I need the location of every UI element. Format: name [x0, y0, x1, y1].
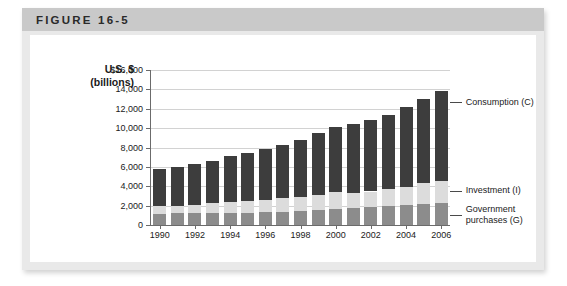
bar-column	[312, 70, 325, 225]
bar-segment	[435, 203, 448, 225]
bar-column	[171, 70, 184, 225]
bar-segment	[224, 213, 237, 225]
bar-segment	[188, 164, 201, 205]
bar-column	[153, 70, 166, 225]
bar-column	[417, 70, 430, 225]
bar-segment	[347, 193, 360, 209]
y-axis-tick	[146, 186, 150, 187]
bar-column	[329, 70, 342, 225]
bar-segment	[329, 192, 342, 209]
bar-segment	[294, 140, 307, 197]
bar-segment	[312, 133, 325, 195]
bar-segment	[171, 206, 184, 214]
y-axis-tick	[146, 128, 150, 129]
bar-segment	[382, 206, 395, 225]
x-axis-tick-label: 1992	[185, 230, 205, 240]
bar-column	[294, 70, 307, 225]
x-axis-tick	[160, 226, 161, 229]
bar-segment	[276, 145, 289, 199]
bar-segment	[188, 213, 201, 225]
bar-segment	[329, 209, 342, 225]
y-axis-tick	[146, 206, 150, 207]
bar-segment	[206, 213, 219, 225]
bar-segment	[400, 187, 413, 205]
x-axis-tick	[336, 226, 337, 229]
bar-segment	[364, 120, 377, 191]
bar-segment	[276, 212, 289, 225]
bar-column	[188, 70, 201, 225]
bar-segment	[312, 210, 325, 225]
legend-label-consumption: Consumption (C)	[466, 97, 534, 108]
x-axis-tick-label: 2000	[326, 230, 346, 240]
bar-segment	[417, 99, 430, 183]
bar-column	[241, 70, 254, 225]
figure-titlebar: FIGURE 16-5	[22, 8, 544, 31]
y-axis-tick-label: 2,000	[120, 201, 143, 211]
legend-label-investment: Investment (I)	[466, 185, 521, 196]
legend-label-line: Investment (I)	[466, 185, 521, 196]
x-axis-tick	[301, 226, 302, 229]
y-axis-tick	[146, 148, 150, 149]
bar-segment	[382, 115, 395, 190]
callout-leader-line	[450, 102, 462, 103]
bar-segment	[224, 202, 237, 213]
y-axis-tick	[146, 225, 150, 226]
callout-leader-line	[450, 191, 462, 192]
bar-column	[347, 70, 360, 225]
y-axis-tick-label: 4,000	[120, 181, 143, 191]
legend-label-line: Consumption (C)	[466, 97, 534, 108]
x-axis-tick	[406, 226, 407, 229]
legend-label-line: Government	[466, 204, 523, 215]
bar-segment	[153, 206, 166, 214]
x-axis-tick	[371, 226, 372, 229]
bar-column	[435, 70, 448, 225]
bar-segment	[188, 205, 201, 213]
bar-segment	[417, 183, 430, 203]
y-axis-tick-label: 12,000	[115, 104, 143, 114]
bar-segment	[364, 207, 377, 225]
bar-segment	[241, 213, 254, 225]
bar-segment	[417, 204, 430, 226]
bar-column	[276, 70, 289, 225]
bar-segment	[329, 127, 342, 192]
figure-card: FIGURE 16-5 U.S. $ (billions) $16,00014,…	[22, 8, 544, 270]
bar-segment	[400, 107, 413, 187]
y-axis-tick	[146, 70, 150, 71]
x-axis-tick	[195, 226, 196, 229]
y-axis-tick	[146, 167, 150, 168]
x-axis-tick-label: 1990	[150, 230, 170, 240]
y-axis-tick-label: 0	[138, 220, 143, 230]
x-axis-tick-label: 2004	[396, 230, 416, 240]
bar-segment	[259, 149, 272, 200]
bar-segment	[276, 198, 289, 211]
bar-series-layer	[151, 70, 450, 225]
y-axis-tick-label: 14,000	[115, 84, 143, 94]
bar-segment	[400, 205, 413, 225]
bar-segment	[153, 169, 166, 206]
x-axis-tick	[441, 226, 442, 229]
stacked-bar-chart: U.S. $ (billions) $16,00014,00012,00010,…	[30, 35, 536, 262]
bar-segment	[206, 161, 219, 204]
y-axis-tick	[146, 109, 150, 110]
x-axis-tick-label: 2006	[431, 230, 451, 240]
bar-segment	[294, 211, 307, 225]
bar-column	[224, 70, 237, 225]
x-axis-tick-label: 1994	[220, 230, 240, 240]
bar-segment	[382, 189, 395, 206]
y-axis-tick-label: 8,000	[120, 143, 143, 153]
y-axis-tick-label: 10,000	[115, 123, 143, 133]
bar-segment	[171, 213, 184, 225]
bar-segment	[347, 124, 360, 192]
bar-segment	[312, 195, 325, 210]
bar-column	[259, 70, 272, 225]
bar-segment	[206, 203, 219, 213]
bar-column	[206, 70, 219, 225]
y-axis-tick	[146, 89, 150, 90]
bar-segment	[347, 208, 360, 225]
x-axis-tick	[230, 226, 231, 229]
figure-plate: U.S. $ (billions) $16,00014,00012,00010,…	[30, 35, 536, 262]
figure-title: FIGURE 16-5	[36, 14, 130, 26]
legend-label-line: purchases (G)	[466, 215, 523, 226]
x-axis-tick-label: 1996	[255, 230, 275, 240]
x-axis-tick-label: 2002	[361, 230, 381, 240]
